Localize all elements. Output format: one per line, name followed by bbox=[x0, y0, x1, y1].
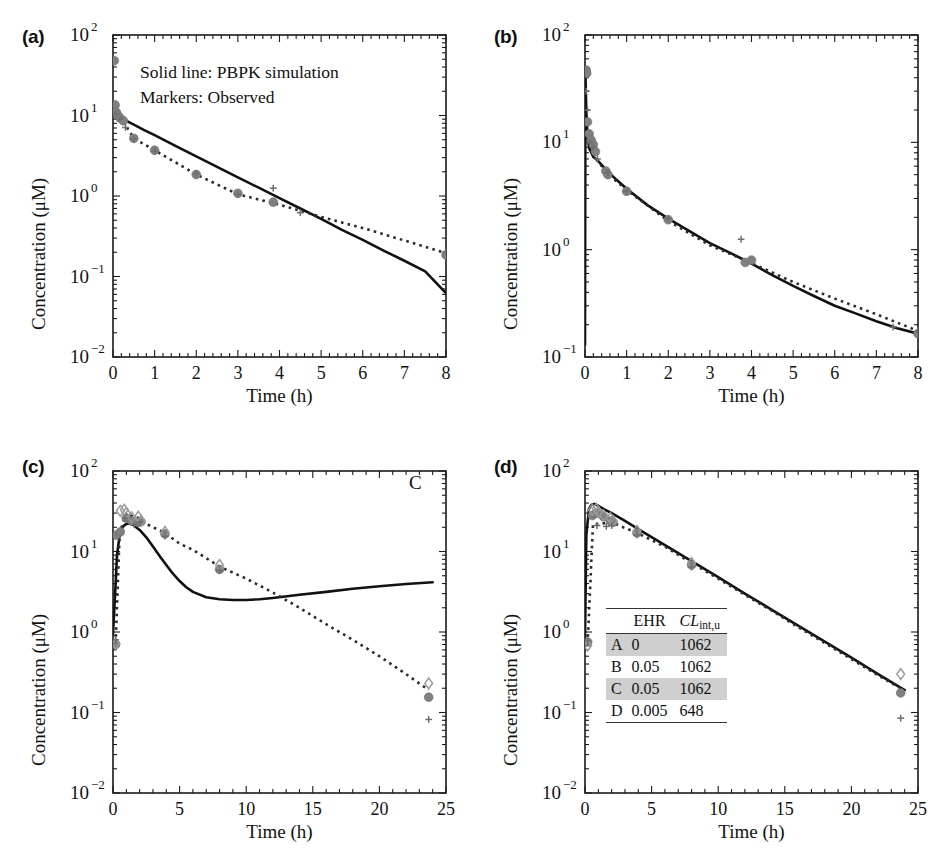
svg-text:10: 10 bbox=[70, 702, 89, 723]
svg-text:10: 10 bbox=[542, 346, 561, 367]
inset-row-d-name: D bbox=[606, 700, 627, 723]
svg-text:10: 10 bbox=[542, 131, 561, 152]
svg-text:0: 0 bbox=[91, 616, 98, 631]
svg-text:2: 2 bbox=[664, 363, 673, 383]
panel-a-ylabel: Concentration (μM) bbox=[28, 178, 50, 330]
svg-text:2: 2 bbox=[563, 19, 570, 34]
svg-text:0: 0 bbox=[563, 616, 570, 631]
svg-text:2: 2 bbox=[563, 455, 570, 470]
panel-d-xlabel: Time (h) bbox=[585, 821, 918, 843]
panel-c-ylabel: Concentration (μM) bbox=[28, 614, 50, 766]
svg-text:2: 2 bbox=[192, 363, 201, 383]
svg-text:0: 0 bbox=[581, 799, 590, 819]
inset-col-clintu-sub: int,u bbox=[699, 619, 720, 631]
svg-text:10: 10 bbox=[237, 799, 255, 819]
svg-text:0: 0 bbox=[109, 799, 118, 819]
panel-d: (d) 051015202510−210−1100101102 EHR CLin… bbox=[472, 430, 945, 866]
svg-text:5: 5 bbox=[175, 799, 184, 819]
panel-b-plot: 01234567810−1100101102 bbox=[472, 0, 945, 430]
svg-text:6: 6 bbox=[358, 363, 367, 383]
svg-text:8: 8 bbox=[442, 363, 451, 383]
inset-col-clintu-main: CL bbox=[680, 612, 700, 629]
svg-text:10: 10 bbox=[542, 621, 561, 642]
svg-text:10: 10 bbox=[542, 460, 561, 481]
table-row: B 0.05 1062 bbox=[606, 656, 727, 678]
svg-text:4: 4 bbox=[275, 363, 284, 383]
svg-text:2: 2 bbox=[91, 19, 98, 34]
svg-text:3: 3 bbox=[705, 363, 714, 383]
svg-text:−2: −2 bbox=[563, 777, 577, 792]
inset-col-blank bbox=[606, 609, 627, 634]
svg-text:25: 25 bbox=[437, 799, 455, 819]
panel-c-xlabel: Time (h) bbox=[113, 821, 446, 843]
svg-text:10: 10 bbox=[70, 24, 89, 45]
svg-text:−1: −1 bbox=[563, 697, 577, 712]
svg-text:15: 15 bbox=[776, 799, 794, 819]
legend-line-solid: Solid line: PBPK simulation bbox=[140, 60, 339, 85]
svg-text:1: 1 bbox=[150, 363, 159, 383]
inset-row-a-name: A bbox=[606, 634, 627, 657]
panel-a: (a) 01234567810−210−1100101102 Solid lin… bbox=[0, 0, 472, 430]
svg-text:10: 10 bbox=[542, 239, 561, 260]
inset-row-d-ehr: 0.005 bbox=[627, 700, 675, 723]
legend-line-markers: Markers: Observed bbox=[140, 85, 339, 110]
svg-text:7: 7 bbox=[872, 363, 881, 383]
inset-table-head: EHR CLint,u bbox=[606, 609, 727, 634]
inset-row-c-name: C bbox=[606, 678, 627, 700]
panel-a-xlabel: Time (h) bbox=[113, 385, 446, 407]
svg-text:8: 8 bbox=[914, 363, 923, 383]
svg-text:−1: −1 bbox=[563, 341, 577, 356]
svg-text:10: 10 bbox=[70, 782, 89, 803]
panel-d-ylabel: Concentration (μM) bbox=[500, 614, 522, 766]
svg-text:1: 1 bbox=[563, 536, 570, 551]
svg-text:−1: −1 bbox=[91, 261, 105, 276]
panel-c-annotation: C bbox=[409, 472, 422, 494]
svg-text:10: 10 bbox=[70, 346, 89, 367]
svg-text:4: 4 bbox=[747, 363, 756, 383]
inset-col-ehr: EHR bbox=[627, 609, 675, 634]
svg-text:3: 3 bbox=[233, 363, 242, 383]
inset-row-b-clintu: 1062 bbox=[675, 656, 727, 678]
inset-table-header-row: EHR CLint,u bbox=[606, 609, 727, 634]
svg-text:10: 10 bbox=[542, 702, 561, 723]
panel-c-plot: 051015202510−210−1100101102 bbox=[0, 430, 472, 866]
inset-row-a-clintu: 1062 bbox=[675, 634, 727, 657]
panel-c: (c) 051015202510−210−1100101102 C Time (… bbox=[0, 430, 472, 866]
svg-text:10: 10 bbox=[542, 782, 561, 803]
table-row: D 0.005 648 bbox=[606, 700, 727, 723]
svg-text:10: 10 bbox=[70, 541, 89, 562]
inset-col-clintu: CLint,u bbox=[675, 609, 727, 634]
inset-row-a-ehr: 0 bbox=[627, 634, 675, 657]
svg-text:20: 20 bbox=[842, 799, 860, 819]
svg-text:0: 0 bbox=[109, 363, 118, 383]
svg-text:20: 20 bbox=[370, 799, 388, 819]
svg-text:7: 7 bbox=[400, 363, 409, 383]
inset-row-b-name: B bbox=[606, 656, 627, 678]
svg-text:10: 10 bbox=[70, 185, 89, 206]
svg-text:2: 2 bbox=[91, 455, 98, 470]
figure-grid: (a) 01234567810−210−1100101102 Solid lin… bbox=[0, 0, 945, 866]
inset-row-d-clintu: 648 bbox=[675, 700, 727, 723]
svg-text:15: 15 bbox=[304, 799, 322, 819]
svg-text:−1: −1 bbox=[91, 697, 105, 712]
table-row: A 0 1062 bbox=[606, 634, 727, 657]
svg-text:10: 10 bbox=[542, 541, 561, 562]
svg-text:−2: −2 bbox=[91, 341, 105, 356]
svg-text:1: 1 bbox=[563, 126, 570, 141]
inset-row-c-clintu: 1062 bbox=[675, 678, 727, 700]
svg-text:10: 10 bbox=[70, 460, 89, 481]
svg-text:1: 1 bbox=[622, 363, 631, 383]
svg-text:−2: −2 bbox=[91, 777, 105, 792]
svg-text:0: 0 bbox=[563, 234, 570, 249]
panel-b-ylabel: Concentration (μM) bbox=[500, 178, 522, 330]
inset-row-b-ehr: 0.05 bbox=[627, 656, 675, 678]
panel-a-legend: Solid line: PBPK simulation Markers: Obs… bbox=[140, 60, 339, 111]
svg-text:10: 10 bbox=[70, 266, 89, 287]
panel-b-xlabel: Time (h) bbox=[585, 385, 918, 407]
svg-text:10: 10 bbox=[709, 799, 727, 819]
svg-text:1: 1 bbox=[91, 536, 98, 551]
svg-text:6: 6 bbox=[830, 363, 839, 383]
svg-text:10: 10 bbox=[70, 105, 89, 126]
table-row: C 0.05 1062 bbox=[606, 678, 727, 700]
svg-text:10: 10 bbox=[70, 621, 89, 642]
